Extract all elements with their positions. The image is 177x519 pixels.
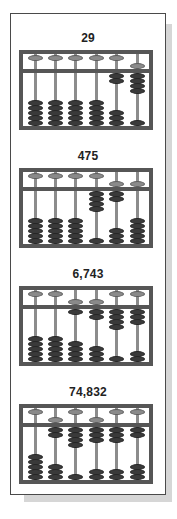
earth-bead	[109, 324, 124, 330]
earth-bead	[130, 432, 145, 438]
heaven-bead	[28, 291, 43, 297]
earth-bead	[130, 319, 145, 325]
heaven-bead	[89, 55, 104, 61]
earth-bead	[89, 120, 104, 126]
heaven-bead	[48, 55, 63, 61]
earth-bead	[68, 120, 83, 126]
earth-bead	[89, 206, 104, 212]
earth-bead	[89, 356, 104, 362]
earth-bead	[68, 238, 83, 244]
earth-bead	[130, 88, 145, 94]
earth-bead	[130, 356, 145, 362]
heaven-bead	[68, 409, 83, 415]
heaven-bead	[48, 173, 63, 179]
abacus-panel: 29 475 6,743 74,832	[10, 13, 166, 495]
earth-bead	[68, 309, 83, 315]
abacus-label: 74,832	[11, 385, 165, 399]
reckoning-bar	[23, 187, 149, 191]
earth-bead	[109, 238, 124, 244]
earth-bead	[68, 356, 83, 362]
earth-bead	[68, 474, 83, 480]
heaven-bead	[28, 173, 43, 179]
earth-bead	[109, 356, 124, 362]
abacus-frame	[19, 404, 153, 484]
heaven-bead	[109, 55, 124, 61]
earth-bead	[89, 314, 104, 320]
earth-bead	[109, 437, 124, 443]
heaven-bead	[48, 291, 63, 297]
heaven-bead	[130, 409, 145, 415]
heaven-bead	[109, 291, 124, 297]
earth-bead	[48, 356, 63, 362]
earth-bead	[48, 238, 63, 244]
earth-bead	[130, 238, 145, 244]
abacus-frame	[19, 286, 153, 366]
earth-bead	[130, 474, 145, 480]
earth-bead	[130, 120, 145, 126]
earth-bead	[89, 474, 104, 480]
earth-bead	[109, 120, 124, 126]
abacus-label: 475	[11, 149, 165, 163]
heaven-bead	[89, 173, 104, 179]
heaven-bead	[68, 173, 83, 179]
earth-bead	[28, 356, 43, 362]
earth-bead	[109, 78, 124, 84]
heaven-bead	[109, 409, 124, 415]
reckoning-bar	[23, 423, 149, 427]
earth-bead	[109, 196, 124, 202]
earth-bead	[68, 442, 83, 448]
earth-bead	[48, 432, 63, 438]
reckoning-bar	[23, 305, 149, 309]
earth-bead	[89, 437, 104, 443]
earth-bead	[28, 474, 43, 480]
abacus-label: 6,743	[11, 267, 165, 281]
reckoning-bar	[23, 69, 149, 73]
earth-bead	[28, 120, 43, 126]
earth-bead	[89, 238, 104, 244]
earth-bead	[48, 474, 63, 480]
heaven-bead	[28, 55, 43, 61]
heaven-bead	[68, 55, 83, 61]
abacus-frame	[19, 50, 153, 130]
heaven-bead	[28, 409, 43, 415]
earth-bead	[28, 238, 43, 244]
heaven-bead	[130, 291, 145, 297]
abacus-frame	[19, 168, 153, 248]
earth-bead	[109, 474, 124, 480]
abacus-label: 29	[11, 31, 165, 45]
earth-bead	[48, 120, 63, 126]
